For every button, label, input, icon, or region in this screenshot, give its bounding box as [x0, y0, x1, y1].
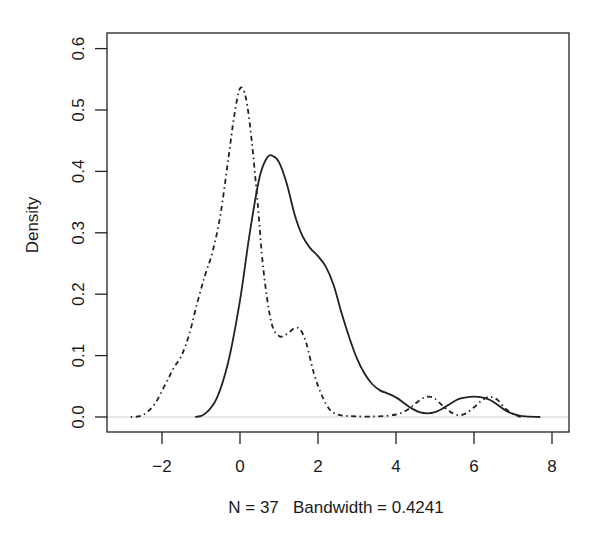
x-tick-label: 4: [391, 457, 400, 476]
y-tick-label: 0.3: [69, 221, 88, 245]
y-tick-label: 0.2: [69, 282, 88, 306]
x-axis-title: N = 37 Bandwidth = 0.4241: [228, 498, 444, 517]
dotdash-density-line: [131, 87, 521, 417]
y-tick-label: 0.5: [69, 98, 88, 122]
y-tick-label: 0.6: [69, 37, 88, 61]
x-tick-label: 6: [469, 457, 478, 476]
x-tick-label: 0: [235, 457, 244, 476]
plot-frame: [107, 33, 569, 432]
x-tick-label: 8: [547, 457, 556, 476]
y-tick-label: 0.4: [69, 160, 88, 184]
y-axis-title: Density: [23, 196, 42, 253]
y-tick-label: 0.1: [69, 344, 88, 368]
x-axis: −202468: [152, 432, 556, 476]
y-tick-label: 0.0: [69, 405, 88, 429]
density-series: [131, 87, 541, 417]
y-axis: 0.00.10.20.30.40.50.6: [69, 37, 107, 429]
x-tick-label: −2: [152, 457, 171, 476]
density-plot: −202468 0.00.10.20.30.40.50.6 Density N …: [0, 0, 593, 546]
x-tick-label: 2: [313, 457, 322, 476]
solid-density-line: [195, 155, 540, 417]
